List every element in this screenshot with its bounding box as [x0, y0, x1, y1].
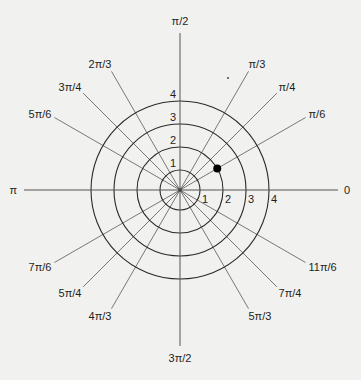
axis-label-right: 0 — [344, 184, 350, 196]
ray-0 — [180, 118, 306, 191]
ring-label-horizontal: 2 — [225, 193, 231, 205]
ring-label-horizontal: 3 — [248, 193, 254, 205]
angle-label: 2π/3 — [89, 58, 112, 70]
ring-label-vertical: 4 — [170, 88, 176, 100]
polar-grid-svg: 11223344 π/6π/4π/32π/33π/45π/67π/65π/44π… — [0, 0, 361, 380]
plotted-point — [213, 77, 229, 172]
angle-label: 7π/6 — [29, 261, 52, 273]
ray-5 — [54, 118, 180, 191]
ray-11 — [180, 190, 306, 263]
angle-label: 5π/4 — [59, 287, 82, 299]
axis-label-left: π — [9, 184, 17, 196]
ring-label-horizontal: 4 — [271, 193, 277, 205]
axis-label-bottom: 3π/2 — [169, 352, 192, 364]
angle-label: 5π/6 — [29, 108, 52, 120]
point-marker — [213, 165, 221, 173]
axes — [24, 33, 338, 346]
angle-label: π/4 — [279, 81, 296, 93]
angle-label: 7π/4 — [279, 287, 302, 299]
axis-label-top: π/2 — [172, 15, 189, 27]
angle-label: π/6 — [309, 108, 326, 120]
ring-label-vertical: 1 — [170, 157, 176, 169]
angle-label: 4π/3 — [89, 310, 112, 322]
angle-label: 11π/6 — [309, 261, 337, 273]
ring-label-vertical: 3 — [170, 111, 176, 123]
ring-label-horizontal: 1 — [202, 193, 208, 205]
ring-label-vertical: 2 — [170, 134, 176, 146]
angle-label: 3π/4 — [59, 81, 82, 93]
speck-artifact — [227, 77, 229, 79]
angle-label: π/3 — [249, 58, 266, 70]
angle-label: 5π/3 — [249, 310, 272, 322]
ray-6 — [54, 190, 180, 263]
polar-grid-diagram: 11223344 π/6π/4π/32π/33π/45π/67π/65π/44π… — [0, 0, 361, 380]
